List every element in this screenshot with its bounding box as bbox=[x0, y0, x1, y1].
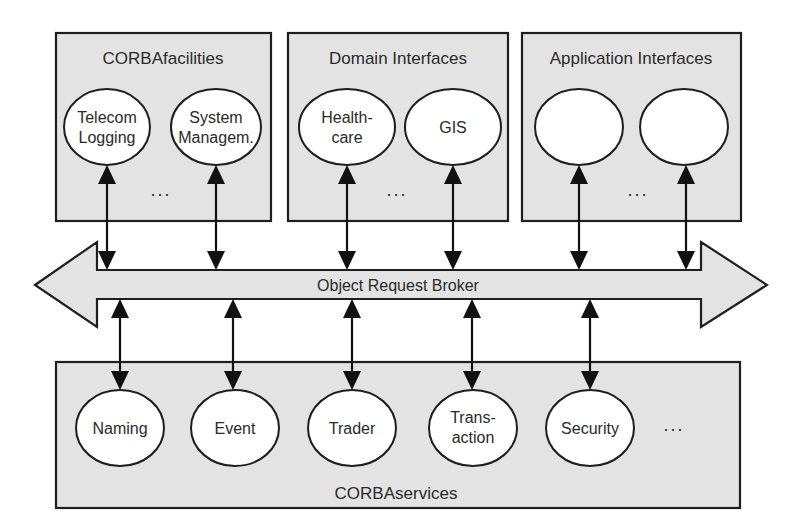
ellipsis-marker: ... bbox=[627, 180, 648, 200]
group-corbaservices: CORBAservices Naming Event Trader Trans-… bbox=[56, 362, 740, 508]
node-naming: Naming bbox=[76, 390, 164, 466]
connector-transaction bbox=[463, 299, 481, 390]
node-security: Security bbox=[546, 390, 634, 466]
group-title: CORBAfacilities bbox=[103, 49, 224, 68]
node-label-line1: Event bbox=[215, 420, 256, 437]
group-title: Domain Interfaces bbox=[329, 49, 467, 68]
connector-naming bbox=[111, 299, 129, 390]
arrowhead-down-icon bbox=[570, 251, 588, 270]
arrowhead-up-icon bbox=[581, 299, 599, 318]
orb-label: Object Request Broker bbox=[317, 277, 480, 294]
group-corbafacilities: CORBAfacilities Telecom Logging System M… bbox=[56, 33, 271, 221]
group-title: CORBAservices bbox=[335, 484, 458, 503]
object-request-broker-bus: Object Request Broker bbox=[35, 242, 767, 327]
node-label-line2: Logging bbox=[79, 129, 136, 146]
node-transaction: Trans- action bbox=[429, 390, 517, 466]
group-application-interfaces: Application Interfaces ... bbox=[522, 33, 741, 221]
node-telecom-logging: Telecom Logging bbox=[64, 89, 150, 165]
connector-event bbox=[224, 299, 242, 390]
node-application-2 bbox=[640, 89, 728, 165]
node-label-line1: GIS bbox=[439, 119, 467, 136]
arrowhead-up-icon bbox=[343, 299, 361, 318]
node-gis: GIS bbox=[405, 89, 501, 165]
node-label-line2: action bbox=[452, 429, 495, 446]
group-domain-interfaces: Domain Interfaces Health- care GIS ... bbox=[288, 33, 508, 221]
arrowhead-down-icon bbox=[444, 251, 462, 270]
ellipsis-marker: ... bbox=[150, 180, 171, 200]
node-event: Event bbox=[191, 390, 279, 466]
node-label-line1: Naming bbox=[92, 420, 147, 437]
connector-trader bbox=[343, 299, 361, 390]
node-label-line1: Trans- bbox=[450, 409, 496, 426]
node-label-line1: Telecom bbox=[77, 109, 137, 126]
node-label-line1: Health- bbox=[321, 109, 373, 126]
ellipsis-marker: ... bbox=[663, 415, 684, 435]
node-ellipse bbox=[640, 89, 728, 165]
node-ellipse bbox=[64, 89, 150, 165]
node-ellipse bbox=[429, 390, 517, 466]
node-label-line1: Trader bbox=[329, 420, 376, 437]
arrowhead-up-icon bbox=[224, 299, 242, 318]
node-trader: Trader bbox=[308, 390, 396, 466]
node-label-line2: care bbox=[331, 129, 362, 146]
node-system-management: System Managem. bbox=[171, 89, 261, 165]
ellipsis-marker: ... bbox=[386, 180, 407, 200]
arrowhead-down-icon bbox=[207, 251, 225, 270]
arrowhead-up-icon bbox=[111, 299, 129, 318]
node-ellipse bbox=[535, 89, 623, 165]
arrowhead-down-icon bbox=[338, 251, 356, 270]
node-ellipse bbox=[299, 89, 395, 165]
arrowhead-up-icon bbox=[463, 299, 481, 318]
node-application-1 bbox=[535, 89, 623, 165]
node-ellipse bbox=[171, 89, 261, 165]
arrowhead-down-icon bbox=[677, 251, 695, 270]
group-title: Application Interfaces bbox=[550, 49, 713, 68]
node-healthcare: Health- care bbox=[299, 89, 395, 165]
corba-architecture-diagram: CORBAfacilities Telecom Logging System M… bbox=[0, 0, 804, 532]
node-label-line2: Managem. bbox=[178, 129, 254, 146]
connector-security bbox=[581, 299, 599, 390]
node-label-line1: System bbox=[189, 109, 242, 126]
arrowhead-down-icon bbox=[98, 251, 116, 270]
node-label-line1: Security bbox=[561, 420, 619, 437]
